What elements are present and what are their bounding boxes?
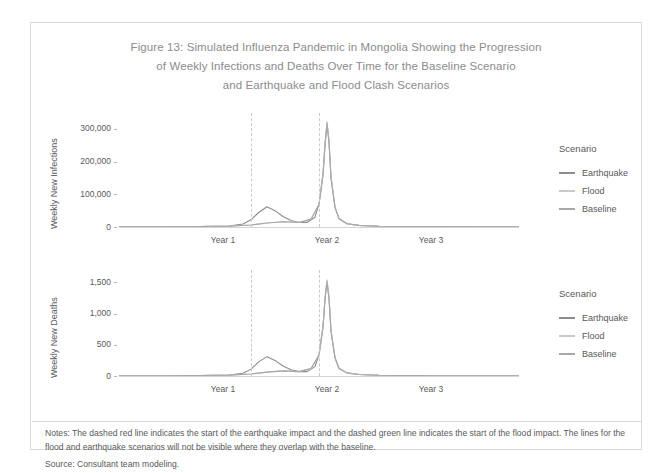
legend-item-earthquake: Earthquake: [559, 309, 628, 327]
legend-label-earthquake: Earthquake: [582, 168, 628, 178]
y-tick-label: 500: [63, 339, 111, 349]
legend-item-flood: Flood: [559, 182, 628, 200]
x-tick-label: Year 1: [193, 235, 253, 245]
legend-swatch-baseline: [559, 208, 575, 210]
y-tick-label: 200,000: [63, 156, 111, 166]
y-tick-label: 1,500: [63, 277, 111, 287]
figure-title: Figure 13: Simulated Influenza Pandemic …: [71, 38, 601, 95]
annotation-line-flood-start: [319, 113, 320, 227]
y-tick-mark: [114, 376, 117, 377]
legend-deaths: Scenario Earthquake Flood Baseline: [559, 288, 628, 363]
y-tick-label: 0: [63, 371, 111, 381]
x-axis-line: [119, 227, 519, 228]
figure-title-line-2: of Weekly Infections and Deaths Over Tim…: [71, 57, 601, 76]
chart-panel-deaths: Weekly New Deaths Scenario Earthquake Fl…: [31, 268, 643, 413]
y-tick-mark: [114, 194, 117, 195]
y-tick-mark: [114, 282, 117, 283]
y-tick-label: 1,000: [63, 308, 111, 318]
legend-item-baseline: Baseline: [559, 345, 628, 363]
legend-item-baseline: Baseline: [559, 200, 628, 218]
figure-title-line-1: Figure 13: Simulated Influenza Pandemic …: [71, 38, 601, 57]
y-tick-mark: [114, 162, 117, 163]
y-tick-mark: [114, 129, 117, 130]
notes-block: Notes: The dashed red line indicates the…: [45, 427, 630, 473]
annotation-line-earthquake-start: [251, 113, 252, 227]
legend-label-flood: Flood: [582, 186, 605, 196]
x-tick-label: Year 2: [297, 384, 357, 394]
y-tick-mark: [114, 314, 117, 315]
legend-swatch-flood: [559, 335, 575, 337]
y-tick-label: 300,000: [63, 123, 111, 133]
source-text: Source: Consultant team modeling.: [45, 458, 630, 472]
notes-divider: [32, 421, 642, 422]
notes-text: Notes: The dashed red line indicates the…: [45, 427, 630, 454]
y-tick-label: 0: [63, 222, 111, 232]
legend-label-baseline: Baseline: [582, 204, 617, 214]
legend-title: Scenario: [559, 288, 628, 299]
figure-frame: Figure 13: Simulated Influenza Pandemic …: [30, 22, 642, 450]
x-tick-label: Year 1: [193, 384, 253, 394]
legend-label-baseline: Baseline: [582, 349, 617, 359]
legend-label-earthquake: Earthquake: [582, 313, 628, 323]
legend-swatch-earthquake: [559, 317, 575, 319]
x-tick-label: Year 3: [401, 235, 461, 245]
y-tick-label: 100,000: [63, 189, 111, 199]
annotation-line-earthquake-start: [251, 270, 252, 376]
x-tick-label: Year 3: [401, 384, 461, 394]
y-axis-title-deaths: Weekly New Deaths: [49, 297, 59, 378]
x-axis-line: [119, 376, 519, 377]
x-tick-label: Year 2: [297, 235, 357, 245]
legend-title: Scenario: [559, 143, 628, 154]
chart-panel-infections: Weekly New Infections Scenario Earthquak…: [31, 111, 643, 261]
legend-item-earthquake: Earthquake: [559, 164, 628, 182]
legend-swatch-flood: [559, 190, 575, 192]
y-axis-title-infections: Weekly New Infections: [49, 138, 59, 229]
figure-title-line-3: and Earthquake and Flood Clash Scenarios: [71, 76, 601, 95]
legend-swatch-baseline: [559, 353, 575, 355]
legend-infections: Scenario Earthquake Flood Baseline: [559, 143, 628, 218]
y-tick-mark: [114, 227, 117, 228]
legend-swatch-earthquake: [559, 172, 575, 174]
legend-label-flood: Flood: [582, 331, 605, 341]
legend-item-flood: Flood: [559, 327, 628, 345]
annotation-line-flood-start: [319, 270, 320, 376]
y-tick-mark: [114, 345, 117, 346]
